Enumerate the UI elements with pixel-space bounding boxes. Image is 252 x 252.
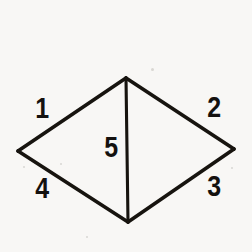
edge-label-5: 5 [100, 133, 122, 162]
edge-label-4: 4 [31, 174, 53, 203]
figure-canvas: 1 2 3 4 5 [0, 0, 252, 252]
edge-label-1: 1 [31, 94, 53, 123]
rhombus-diagram [0, 0, 252, 252]
edge-label-3: 3 [203, 172, 225, 201]
edge-label-2: 2 [203, 93, 225, 122]
median-edge [126, 78, 128, 222]
